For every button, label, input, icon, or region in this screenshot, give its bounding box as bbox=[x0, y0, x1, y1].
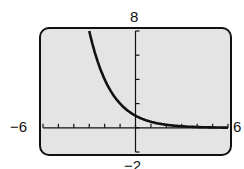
plot-svg bbox=[0, 0, 244, 169]
